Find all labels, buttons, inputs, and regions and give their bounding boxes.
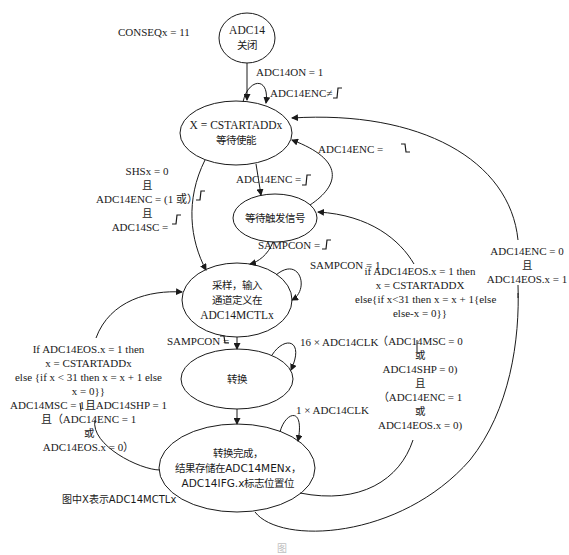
figure-caption: 图: [277, 540, 287, 555]
label-done-to-trigger-right: if ADC14EOS.x = 1 then x = CSTARTADDX el…: [355, 264, 485, 432]
state-wait-enable-label: X = CSTARTADDx 等待使能: [180, 103, 292, 163]
label-wait-to-sample: SHSx = 0 且 ADC14ENC = (1 或） 且 ADC14SC =: [92, 164, 202, 234]
label-done-to-wait-far: ADC14ENC = 0 且 ADC14EOS.x = 1: [486, 244, 568, 286]
state-sample-label: 采样，输入 通道定义在 ADC14MCTLx: [182, 265, 292, 335]
state-wait-trigger-label: 等待触发信号: [233, 195, 317, 241]
diagram-note: 图中X表示ADC14MCTLx: [62, 493, 176, 507]
rising-edge-icon: [302, 175, 311, 185]
label-wait-self: ADC14ENC≠: [270, 86, 332, 100]
state-done-label: 转换完成， 结果存储在ADC14MENx， ADC14IFG.x标志位置位: [160, 428, 316, 508]
label-wait-to-trigger: ADC14ENC =: [236, 172, 301, 186]
state-off-label: ADC14 关闭: [219, 14, 275, 62]
arrow-right-upper: [318, 212, 414, 264]
label-done-to-sample-left: If ADC14EOS.x = 1 then x = CSTARTADDx el…: [6, 342, 171, 454]
rising-edge-icon: [333, 88, 342, 98]
state-convert-label: 转换: [181, 350, 293, 408]
arrow-done-to-trigger-right: [300, 440, 413, 496]
arrow-far-upper: [292, 117, 518, 240]
conseq-label: CONSEQx = 11: [118, 25, 190, 39]
label-trigger-to-wait: ADC14ENC =: [318, 142, 383, 156]
label-sample-to-convert: SAMPCON =: [167, 334, 229, 348]
label-trigger-to-sample: SAMPCON =: [258, 238, 320, 252]
arrow-left-upper: [96, 292, 182, 338]
falling-edge-icon: [401, 144, 410, 152]
rising-edge-icon: [322, 240, 331, 249]
label-off-to-wait: ADC14ON = 1: [256, 65, 323, 79]
